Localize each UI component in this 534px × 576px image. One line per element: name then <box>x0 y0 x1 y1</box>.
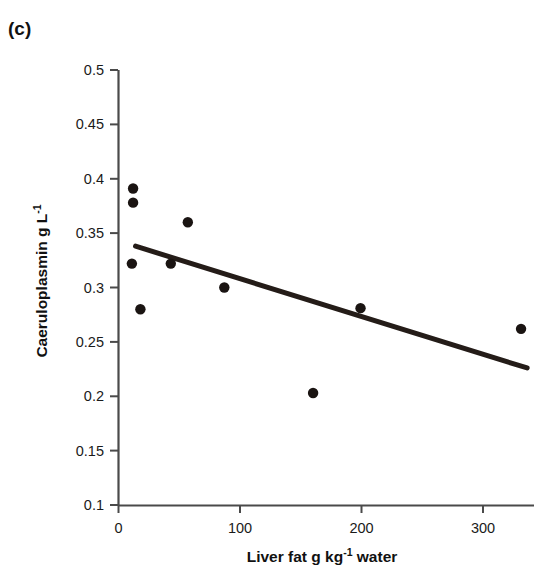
x-tick-label: 100 <box>228 520 252 536</box>
data-point <box>183 217 193 227</box>
data-point <box>166 258 176 268</box>
y-tick-label: 0.15 <box>76 443 104 459</box>
data-point <box>308 388 318 398</box>
axis-lines <box>118 70 534 506</box>
y-tick-label: 0.5 <box>84 62 104 78</box>
data-point <box>128 183 138 193</box>
x-axis-tick-labels: 0 100 200 300 <box>114 520 495 536</box>
data-point <box>127 258 137 268</box>
figure-panel-c: (c) Caeruloplasmin g L-1 Liver fat g kg-… <box>0 0 534 576</box>
y-tick-label: 0.45 <box>76 116 104 132</box>
y-tick-label: 0.25 <box>76 334 104 350</box>
data-point <box>219 282 229 292</box>
data-point <box>355 303 365 313</box>
x-tick-label: 0 <box>114 520 122 536</box>
x-tick-label: 300 <box>471 520 495 536</box>
data-point <box>128 197 138 207</box>
y-tick-label: 0.35 <box>76 225 104 241</box>
y-tick-label: 0.3 <box>84 280 104 296</box>
regression-trendline <box>136 246 528 368</box>
data-point-group <box>127 183 527 398</box>
data-point <box>135 304 145 314</box>
data-point <box>516 324 526 334</box>
x-tick-label: 200 <box>349 520 373 536</box>
y-tick-label: 0.4 <box>84 171 104 187</box>
y-axis-ticks <box>110 70 118 505</box>
y-axis-tick-labels: 0.5 0.45 0.4 0.35 0.3 0.25 0.2 0.15 0.1 <box>76 62 104 513</box>
y-tick-label: 0.1 <box>84 497 104 513</box>
scatter-plot: 0.5 0.45 0.4 0.35 0.3 0.25 0.2 0.15 0.1 … <box>0 0 534 576</box>
trendline-segment <box>136 246 528 368</box>
y-tick-label: 0.2 <box>84 388 104 404</box>
